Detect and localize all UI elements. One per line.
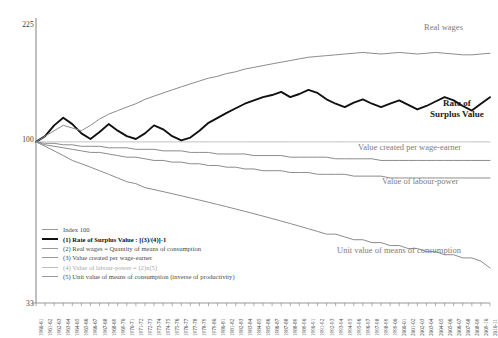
x-axis-labels: 1960-611961-621962-631963-641964-651965-… [0, 306, 494, 338]
legend-item-label: (3) Value created per wage-earner [63, 254, 152, 261]
legend-swatch-icon [42, 238, 58, 240]
x-axis-label: 1960-61 [38, 319, 44, 336]
x-axis-label: 1991-92 [319, 319, 325, 336]
x-axis-label: 1967-68 [102, 319, 108, 336]
x-axis-label: 1963-64 [65, 319, 71, 336]
annotation-value-of-labour-power: Value of labour-power [382, 176, 458, 186]
x-axis-label: 1964-65 [74, 319, 80, 336]
x-axis-label: 1999-00 [392, 319, 398, 336]
x-axis-label: 2006-07 [456, 319, 462, 336]
x-axis-label: 1992-93 [329, 319, 335, 336]
x-axis-label: 1974-75 [165, 319, 171, 336]
legend-swatch-icon [42, 267, 58, 268]
x-axis-label: 1995-96 [356, 319, 362, 336]
legend-swatch-icon [42, 229, 58, 230]
x-axis-label: 1979-80 [211, 319, 217, 336]
annotation-value-created-per-wage-earner: Value created per wage-earner [358, 142, 461, 152]
legend-item-label: (4) Value of labour-power = (2)x(5) [63, 264, 157, 271]
annotation-unit-value-of-means-of-consumption: Unit value of means of consumption [337, 245, 461, 255]
x-axis-label: 1997-98 [374, 319, 380, 336]
legend-item: Index 100 [42, 225, 235, 234]
x-axis-label: 1971-72 [138, 319, 144, 336]
legend-swatch-icon [42, 248, 58, 249]
x-axis-label: 1988-89 [292, 319, 298, 336]
x-axis-label: 1976-77 [183, 319, 189, 336]
annotation-rate-of-surplus-value: Rate of Surplus Value [430, 98, 484, 120]
x-axis-label: 1968-69 [111, 319, 117, 336]
legend-item: (3) Value created per wage-earner [42, 253, 235, 262]
legend-item: (5) Unit value of means of consumption (… [42, 272, 235, 281]
x-axis-label: 1998-99 [383, 319, 389, 336]
chart-legend: Index 100(1) Rate of Surplus Value : [(3… [42, 225, 235, 281]
x-axis-label: 1996-97 [365, 319, 371, 336]
x-axis-label: 2009-10 [483, 319, 489, 336]
x-axis-label: 1982-83 [238, 319, 244, 336]
annotation-real-wages: Real wages [424, 22, 463, 32]
x-axis-label: 2004-05 [438, 319, 444, 336]
x-axis-label: 1989-90 [301, 319, 307, 336]
x-axis-label: 1985-86 [265, 319, 271, 336]
x-axis-label: 2010-11 [492, 319, 498, 336]
annotation-rate-line1: Rate of [430, 98, 484, 109]
x-axis-label: 1969-70 [120, 319, 126, 336]
x-axis-label: 1983-84 [247, 319, 253, 336]
x-axis-label: 1970-71 [129, 319, 135, 336]
x-axis-label: 2001-02 [410, 319, 416, 336]
legend-swatch-icon [42, 257, 58, 258]
x-axis-label: 1972-73 [147, 319, 153, 336]
x-axis-label: 1986-87 [274, 319, 280, 336]
x-axis-label: 1962-63 [56, 319, 62, 336]
x-axis-label: 1977-78 [192, 319, 198, 336]
series-line-rate_of_surplus_value [36, 90, 490, 142]
x-axis-label: 2002-03 [419, 319, 425, 336]
annotation-rate-line2: Surplus Value [430, 109, 484, 120]
x-axis-label: 1965-66 [83, 319, 89, 336]
legend-item: (2) Real wages = Quantity of means of co… [42, 244, 235, 253]
x-axis-label: 1981-82 [229, 319, 235, 336]
x-axis-label: 1980-81 [220, 319, 226, 336]
x-axis-label: 1987-88 [283, 319, 289, 336]
x-axis-label: 1966-67 [92, 319, 98, 336]
x-axis-label: 2005-06 [447, 319, 453, 336]
legend-item-label: (5) Unit value of means of consumption (… [63, 273, 235, 280]
x-axis-label: 1975-76 [174, 319, 180, 336]
x-axis-label: 1993-94 [338, 319, 344, 336]
legend-item-label: (2) Real wages = Quantity of means of co… [63, 245, 201, 252]
legend-swatch-icon [42, 276, 58, 277]
x-axis-label: 1990-91 [310, 319, 316, 336]
legend-item: (4) Value of labour-power = (2)x(5) [42, 263, 235, 272]
legend-item: (1) Rate of Surplus Value : [(3)/(4)]-1 [42, 234, 235, 243]
legend-item-label: (1) Rate of Surplus Value : [(3)/(4)]-1 [63, 236, 166, 243]
x-axis-label: 1984-85 [256, 319, 262, 336]
x-axis-label: 2000-01 [401, 319, 407, 336]
x-axis-label: 2007-08 [465, 319, 471, 336]
x-axis-label: 1994-95 [347, 319, 353, 336]
x-axis-label: 1978-79 [201, 319, 207, 336]
x-axis-label: 2003-04 [428, 319, 434, 336]
x-axis-label: 1973-74 [156, 319, 162, 336]
legend-item-label: Index 100 [63, 226, 90, 233]
x-axis-label: 1961-62 [47, 319, 53, 336]
x-axis-label: 2008-09 [474, 319, 480, 336]
